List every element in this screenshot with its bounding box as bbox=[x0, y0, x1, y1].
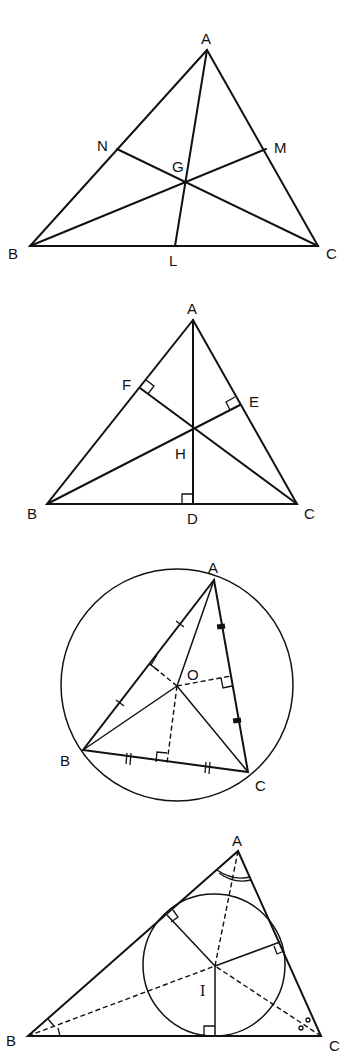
tick-ac-upper-icon bbox=[217, 623, 226, 629]
perp-bisector-bc bbox=[167, 686, 177, 763]
angle-b-mark-lower-icon bbox=[58, 1028, 60, 1036]
angle-c-mark-lower-icon bbox=[299, 1026, 303, 1030]
segment-oc bbox=[177, 686, 248, 772]
right-angle-d-icon bbox=[182, 494, 193, 504]
segment-ob bbox=[83, 686, 177, 750]
label-c: C bbox=[326, 245, 337, 262]
angle-c-mark-upper-icon bbox=[306, 1018, 310, 1022]
label-l: L bbox=[169, 252, 177, 269]
altitude-be bbox=[47, 405, 240, 504]
label-a: A bbox=[232, 832, 242, 849]
angle-b-mark-upper-icon bbox=[48, 1019, 54, 1026]
right-angle-f-icon bbox=[146, 380, 154, 394]
label-f: F bbox=[122, 376, 131, 393]
bisector-b bbox=[28, 966, 215, 1036]
label-a: A bbox=[208, 559, 218, 576]
right-angle-bc-icon bbox=[204, 1026, 215, 1036]
radius-ac bbox=[215, 942, 280, 966]
label-a: A bbox=[187, 300, 197, 317]
geometry-figure: A B C N M G L A B C F E H D bbox=[0, 0, 355, 1061]
circumcenter-diagram: A B C O bbox=[60, 559, 293, 801]
label-d: D bbox=[187, 510, 198, 527]
label-o: O bbox=[187, 666, 199, 683]
label-b: B bbox=[8, 245, 18, 262]
label-b: B bbox=[27, 505, 37, 522]
label-m: M bbox=[274, 139, 287, 156]
label-c: C bbox=[255, 777, 266, 794]
label-a: A bbox=[201, 30, 211, 47]
label-n: N bbox=[97, 137, 108, 154]
incenter-diagram: A B C I bbox=[6, 832, 340, 1054]
label-b: B bbox=[60, 752, 70, 769]
right-angle-ab-icon bbox=[151, 655, 159, 671]
orthocenter-diagram: A B C F E H D bbox=[27, 300, 315, 527]
label-c: C bbox=[304, 505, 315, 522]
altitude-cf bbox=[140, 388, 297, 504]
triangle-abc bbox=[83, 580, 248, 772]
label-h: H bbox=[175, 445, 186, 462]
radius-ab bbox=[167, 915, 215, 966]
right-angle-ac-icon bbox=[221, 678, 232, 688]
label-b: B bbox=[6, 1032, 16, 1049]
label-e: E bbox=[249, 393, 259, 410]
tick-bc-right-icon bbox=[205, 762, 210, 774]
label-c: C bbox=[329, 1037, 340, 1054]
label-g: G bbox=[172, 158, 184, 175]
label-i: I bbox=[200, 982, 205, 999]
centroid-diagram: A B C N M G L bbox=[8, 30, 337, 269]
tick-bc-left-icon bbox=[126, 753, 131, 765]
